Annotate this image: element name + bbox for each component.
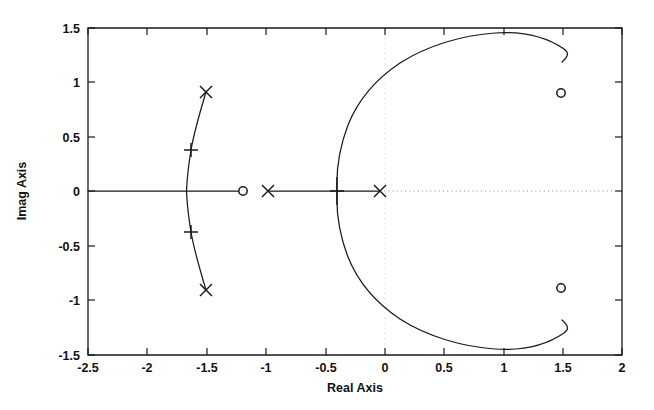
- plot-svg: -2.5 -2 -1.5 -1 -0.5 0 0.5 1 1.5 2 1.5 1…: [0, 0, 654, 410]
- y-tick-label: 1.5: [63, 22, 80, 36]
- gain-marker-plus: [330, 177, 344, 205]
- zero-marker-circle: [557, 89, 565, 97]
- y-tick-label: 0.5: [63, 131, 80, 145]
- y-tick-label: -0.5: [58, 240, 80, 254]
- root-locus-figure: -2.5 -2 -1.5 -1 -0.5 0 0.5 1 1.5 2 1.5 1…: [0, 0, 654, 410]
- gain-marker-plus: [184, 143, 198, 157]
- x-tick-label: 2: [619, 361, 626, 375]
- x-tick-label: 1.5: [554, 361, 571, 375]
- y-tick-label: 0: [73, 185, 80, 199]
- locus-branches: [88, 33, 568, 350]
- x-tick-label: 0.5: [435, 361, 452, 375]
- x-tick-label: -2: [141, 361, 152, 375]
- x-tick-labels: -2.5 -2 -1.5 -1 -0.5 0 0.5 1 1.5 2: [77, 361, 625, 375]
- zero-marker-circle: [239, 187, 247, 195]
- x-tick-label: -1: [260, 361, 271, 375]
- branch-right-loop-lower: [337, 191, 568, 349]
- y-tick-labels: 1.5 1 0.5 0 -0.5 -1 -1.5: [58, 22, 80, 363]
- y-tick-label: -1.5: [58, 349, 80, 363]
- gain-marker-plus: [184, 225, 198, 239]
- y-axis-label: Imag Axis: [15, 162, 29, 221]
- branch-right-loop-upper: [337, 33, 568, 191]
- y-tick-label: -1: [69, 294, 80, 308]
- x-tick-label: -1.5: [196, 361, 218, 375]
- y-tick-label: 1: [73, 76, 80, 90]
- x-axis-label: Real Axis: [327, 381, 383, 395]
- x-tick-label: -2.5: [77, 361, 99, 375]
- pole-marker-x: [200, 284, 212, 296]
- x-tick-label: -0.5: [315, 361, 337, 375]
- pole-marker-x: [200, 86, 212, 98]
- zero-marker-circle: [557, 284, 565, 292]
- x-tick-label: 1: [501, 361, 508, 375]
- x-tick-label: 0: [382, 361, 389, 375]
